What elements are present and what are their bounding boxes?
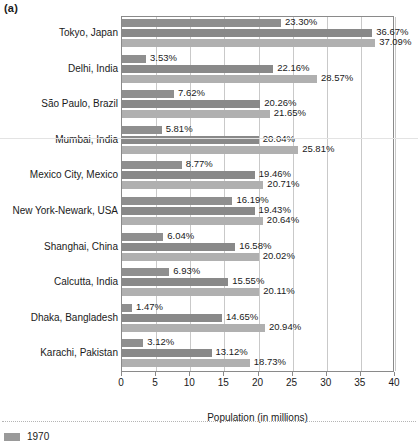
bar[interactable] [122, 126, 162, 134]
bar[interactable] [122, 146, 298, 154]
bar[interactable] [122, 233, 163, 241]
x-tick-mark [326, 372, 327, 376]
x-tick-label: 25 [286, 377, 297, 388]
category-label: Shanghai, China [0, 241, 118, 252]
bar[interactable] [122, 39, 375, 47]
bar-value-label: 6.93% [173, 265, 200, 276]
category-label: Mumbai, India [0, 134, 118, 145]
x-tick-label: 20 [252, 377, 263, 388]
bar-group: 23.30%36.67%37.09% [122, 17, 393, 53]
bar-group: 3.12%13.12%18.73% [122, 337, 393, 373]
x-axis: 0510152025303540 [121, 372, 394, 392]
x-tick-label: 0 [118, 377, 124, 388]
x-tick-label: 5 [152, 377, 158, 388]
bar[interactable] [122, 55, 146, 63]
bar[interactable] [122, 324, 265, 332]
bar-value-label: 20.02% [263, 250, 295, 261]
bar[interactable] [122, 349, 212, 357]
legend-separator [2, 421, 416, 422]
bar[interactable] [122, 75, 317, 83]
bar[interactable] [122, 100, 260, 108]
bar[interactable] [122, 90, 174, 98]
bar[interactable] [122, 181, 263, 189]
x-tick-mark [360, 372, 361, 376]
divider-line [0, 138, 418, 139]
bar[interactable] [122, 314, 222, 322]
bar[interactable] [122, 339, 143, 347]
bar-row: 7.62% [122, 90, 393, 98]
bar-value-label: 6.04% [167, 230, 194, 241]
bar-value-label: 8.77% [186, 158, 213, 169]
bar-value-label: 5.81% [166, 123, 193, 134]
bar[interactable] [122, 29, 372, 37]
bar-value-label: 15.55% [232, 275, 264, 286]
bar[interactable] [122, 161, 182, 169]
bar[interactable] [122, 197, 232, 205]
panel-label: (a) [4, 2, 18, 14]
plot-area: 23.30%36.67%37.09%3.53%22.16%28.57%7.62%… [121, 16, 394, 372]
bar-value-label: 21.65% [274, 107, 306, 118]
bar-row: 3.12% [122, 339, 393, 347]
bar-row: 20.26% [122, 100, 393, 108]
bar-value-label: 20.71% [267, 178, 299, 189]
bar-value-label: 7.62% [178, 87, 205, 98]
bar[interactable] [122, 288, 259, 296]
bar-row: 20.02% [122, 253, 393, 261]
bar[interactable] [122, 207, 255, 215]
bar-group: 6.93%15.55%20.11% [122, 266, 393, 302]
bar-value-label: 14.65% [226, 311, 258, 322]
category-label: Mexico City, Mexico [0, 169, 118, 180]
x-tick-label: 10 [184, 377, 195, 388]
bar[interactable] [122, 268, 169, 276]
bar-row: 28.57% [122, 75, 393, 83]
bar[interactable] [122, 304, 132, 312]
bar-value-label: 22.16% [277, 62, 309, 73]
bar-row: 23.30% [122, 19, 393, 27]
bar-row: 21.65% [122, 110, 393, 118]
bar-group: 16.19%19.43%20.64% [122, 195, 393, 231]
bar[interactable] [122, 253, 259, 261]
bar-row: 20.11% [122, 288, 393, 296]
chart-legend: 1970 [4, 431, 49, 442]
x-tick-mark [189, 372, 190, 376]
bar[interactable] [122, 359, 250, 367]
bar[interactable] [122, 217, 263, 225]
bar[interactable] [122, 278, 228, 286]
bar-group: 7.62%20.26%21.65% [122, 88, 393, 124]
x-tick-mark [394, 372, 395, 376]
gridline [395, 17, 396, 371]
category-label: Dhaka, Bangladesh [0, 312, 118, 323]
bar-value-label: 3.53% [150, 52, 177, 63]
bar-group: 5.81%20.04%25.81% [122, 124, 393, 160]
bar[interactable] [122, 19, 281, 27]
legend-label-1970: 1970 [27, 431, 49, 442]
bar-value-label: 20.94% [269, 321, 301, 332]
bar-value-label: 25.81% [302, 143, 334, 154]
x-tick-mark [223, 372, 224, 376]
category-label: Calcutta, India [0, 276, 118, 287]
bar-value-label: 20.11% [263, 285, 295, 296]
bar[interactable] [122, 171, 255, 179]
category-label: Tokyo, Japan [0, 27, 118, 38]
bar-chart: Tokyo, JapanDelhi, IndiaSão Paulo, Brazi… [0, 16, 418, 376]
bar[interactable] [122, 243, 235, 251]
category-label: New York-Newark, USA [0, 205, 118, 216]
bar-value-label: 18.73% [254, 356, 286, 367]
bar-row: 16.58% [122, 243, 393, 251]
x-tick-mark [155, 372, 156, 376]
bar-row: 20.04% [122, 136, 393, 144]
bar-row: 19.46% [122, 171, 393, 179]
category-label: Karachi, Pakistan [0, 347, 118, 358]
x-tick-mark [292, 372, 293, 376]
bar-row: 20.94% [122, 324, 393, 332]
bar[interactable] [122, 65, 273, 73]
bar[interactable] [122, 136, 259, 144]
legend-swatch-1970 [4, 433, 20, 441]
bar-row: 18.73% [122, 359, 393, 367]
bar-row: 5.81% [122, 126, 393, 134]
bar-value-label: 3.12% [147, 336, 174, 347]
bar[interactable] [122, 110, 270, 118]
bar-value-label: 37.09% [379, 36, 411, 47]
bar-row: 8.77% [122, 161, 393, 169]
bar-group: 6.04%16.58%20.02% [122, 231, 393, 267]
